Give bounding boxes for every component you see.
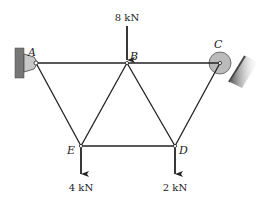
node-label-c: C (214, 38, 223, 51)
load-label-d: 2 kN (163, 182, 188, 193)
member-ae (36, 63, 81, 146)
members (36, 63, 220, 146)
joint-b (125, 61, 128, 64)
truss-diagram: 8 kN 4 kN 2 kN A B C E D (0, 0, 258, 208)
joint-e (79, 144, 82, 147)
member-bd (127, 63, 175, 146)
wall-left (15, 48, 24, 78)
joint-c (218, 61, 221, 64)
member-eb (81, 63, 127, 146)
joint-d (173, 144, 176, 147)
member-dc (175, 63, 220, 146)
load-label-b: 8 kN (115, 12, 140, 23)
node-label-e: E (66, 144, 75, 157)
node-label-b: B (129, 50, 138, 63)
node-label-d: D (178, 144, 188, 157)
node-label-a: A (27, 46, 36, 59)
joint-a (34, 61, 38, 65)
load-label-e: 4 kN (69, 182, 94, 193)
